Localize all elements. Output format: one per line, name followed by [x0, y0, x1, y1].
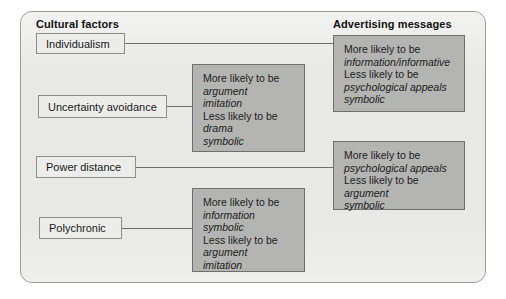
message-box-power-distance[interactable]: More likely to be psychological appeals … — [333, 141, 465, 210]
factor-box-uncertainty-avoidance[interactable]: Uncertainty avoidance — [38, 95, 167, 118]
connector-power-distance — [136, 167, 333, 168]
less-likely-item: drama — [203, 122, 295, 135]
connector-individualism — [125, 43, 333, 44]
more-likely-lead: More likely to be — [344, 43, 455, 56]
more-likely-item: psychological appeals — [344, 162, 455, 175]
more-likely-lead: More likely to be — [203, 196, 295, 209]
connector-polychronic — [122, 228, 192, 229]
column-heading-cultural-factors: Cultural factors — [36, 18, 119, 30]
less-likely-lead: Less likely to be — [203, 234, 295, 247]
more-likely-item: information — [203, 209, 295, 222]
more-likely-item: symbolic — [203, 221, 295, 234]
connector-uncertainty-avoidance — [167, 106, 192, 107]
message-box-individualism[interactable]: More likely to be information/informativ… — [333, 35, 465, 112]
factor-label-polychronic: Polychronic — [49, 222, 106, 234]
diagram-canvas: Cultural factors Advertising messages In… — [0, 0, 506, 299]
factor-box-polychronic[interactable]: Polychronic — [39, 217, 122, 239]
more-likely-item: information/informative — [344, 56, 455, 69]
less-likely-item: argument — [203, 246, 295, 259]
message-box-polychronic[interactable]: More likely to be information symbolic L… — [192, 188, 305, 272]
more-likely-item: imitation — [203, 97, 295, 110]
less-likely-lead: Less likely to be — [344, 174, 455, 187]
factor-box-individualism[interactable]: Individualism — [36, 33, 125, 54]
more-likely-item: argument — [203, 85, 295, 98]
factor-label-individualism: Individualism — [46, 38, 110, 50]
less-likely-item: imitation — [203, 259, 295, 272]
factor-box-power-distance[interactable]: Power distance — [36, 156, 136, 178]
factor-label-power-distance: Power distance — [46, 161, 121, 173]
less-likely-item: symbolic — [344, 93, 455, 106]
less-likely-item: symbolic — [203, 135, 295, 148]
less-likely-lead: Less likely to be — [203, 110, 295, 123]
less-likely-item: psychological appeals — [344, 81, 455, 94]
factor-label-uncertainty-avoidance: Uncertainty avoidance — [48, 101, 157, 113]
message-box-uncertainty-avoidance[interactable]: More likely to be argument imitation Les… — [192, 64, 305, 152]
more-likely-lead: More likely to be — [344, 149, 455, 162]
column-heading-advertising-messages: Advertising messages — [333, 18, 452, 30]
less-likely-item: argument — [344, 187, 455, 200]
more-likely-lead: More likely to be — [203, 72, 295, 85]
less-likely-item: symbolic — [344, 199, 455, 212]
less-likely-lead: Less likely to be — [344, 68, 455, 81]
